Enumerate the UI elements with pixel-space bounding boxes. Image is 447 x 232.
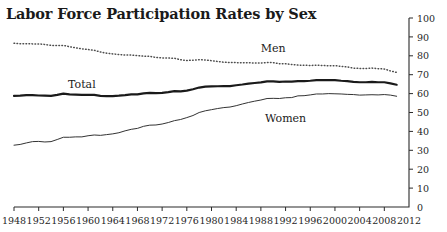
- y-axis-tick-label: 100: [417, 13, 435, 24]
- y-axis-tick-label: 70: [417, 69, 429, 80]
- y-axis-tick-label: 0: [417, 202, 423, 213]
- x-axis-tick-label: 1976: [175, 215, 199, 226]
- y-axis-tick-label: 60: [417, 88, 429, 99]
- x-axis-tick-label: 1984: [224, 215, 248, 226]
- series-annotation-total: Total: [68, 78, 96, 91]
- x-axis-tick-label: 1948: [2, 215, 26, 226]
- x-axis-tick-label: 1960: [76, 215, 100, 226]
- y-axis-tick-label: 80: [417, 50, 429, 61]
- chart-container: Labor Force Participation Rates by Sex 0…: [0, 0, 447, 232]
- y-axis-tick-label: 40: [417, 126, 429, 137]
- y-axis-tick-label: 20: [417, 164, 429, 175]
- x-axis-tick-label: 1972: [150, 215, 174, 226]
- x-axis-tick-label: 1956: [51, 215, 75, 226]
- y-axis-tick-label: 10: [417, 183, 429, 194]
- y-axis-tick-label: 30: [417, 145, 429, 156]
- y-axis-tick-label: 90: [417, 32, 429, 43]
- y-axis-tick-label: 50: [417, 107, 429, 118]
- x-axis-tick-label: 2000: [323, 215, 347, 226]
- x-axis-tick-label: 1968: [125, 215, 149, 226]
- series-line-women: [14, 94, 397, 146]
- x-axis-tick-label: 2008: [372, 215, 396, 226]
- x-axis-tick-label: 1992: [273, 215, 297, 226]
- x-axis-tick-label: 1952: [27, 215, 51, 226]
- x-axis-tick-label: 2012: [397, 215, 421, 226]
- series-line-men: [14, 43, 397, 72]
- x-axis-tick-label: 1988: [249, 215, 273, 226]
- series-annotation-men: Men: [261, 42, 286, 55]
- line-chart-plot: 0102030405060708090100194819521956196019…: [0, 0, 447, 232]
- axis-spine: [14, 18, 409, 207]
- x-axis-tick-label: 1996: [298, 215, 322, 226]
- x-axis-tick-label: 2004: [348, 215, 372, 226]
- x-axis-tick-label: 1964: [101, 215, 125, 226]
- series-annotation-women: Women: [265, 112, 306, 125]
- x-axis-tick-label: 1980: [199, 215, 223, 226]
